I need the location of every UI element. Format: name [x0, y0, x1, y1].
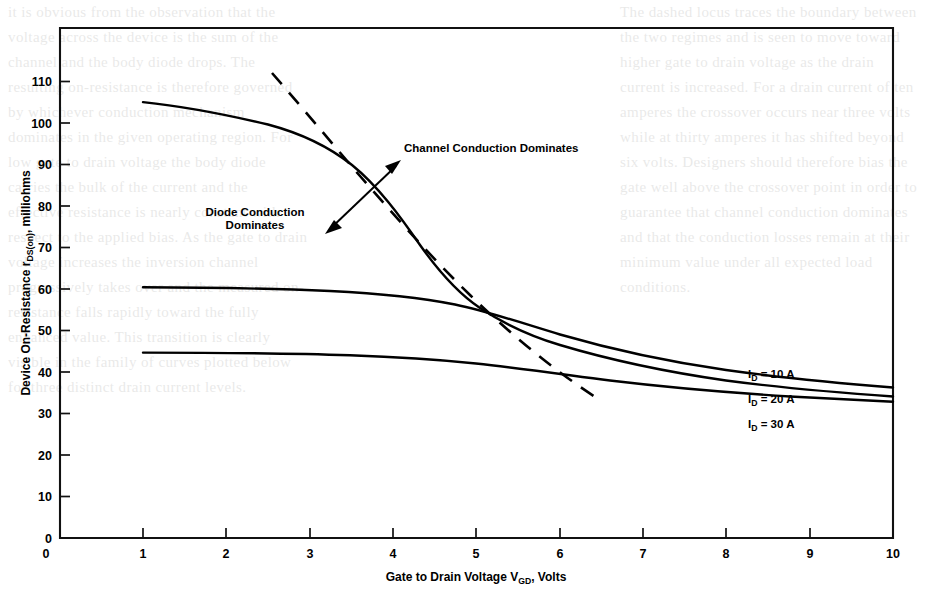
y-tick-label: 20 [38, 449, 52, 463]
y-tick-label: 110 [32, 75, 52, 89]
y-tick-label: 70 [38, 241, 52, 255]
y-tick-label: 40 [38, 366, 52, 380]
series-label-id-30a: ID = 30 A [748, 418, 794, 433]
y-tick-label: 100 [31, 117, 52, 131]
y-axis-ticks [60, 82, 70, 539]
x-axis-ticks [60, 528, 893, 538]
x-axis-title: Gate to Drain Voltage VGD, Volts [386, 570, 567, 586]
annotation-channel-conduction-label: Channel Conduction Dominates [404, 142, 578, 154]
annotation-diode-conduction-line1: Diode Conduction [205, 206, 304, 218]
svg-text:ID = 30 A: ID = 30 A [748, 418, 794, 433]
x-axis-tick-labels: 0 1 2 3 4 5 6 7 8 9 10 [43, 547, 900, 561]
annotation-channel-conduction: Channel Conduction Dominates [404, 142, 578, 154]
y-axis-title-tail: , milliohms [19, 170, 33, 233]
x-tick-label: 0 [43, 547, 50, 561]
x-axis-title-subscript: GD [518, 576, 531, 586]
annotation-diode-conduction: Diode Conduction Dominates [205, 206, 304, 231]
chart-svg: 0 10 20 30 40 50 60 70 80 90 100 110 [0, 0, 929, 600]
double-headed-arrow [325, 160, 401, 234]
series-label-20a-tail: = 20 A [757, 393, 794, 405]
annotation-diode-conduction-line2: Dominates [226, 219, 285, 231]
x-tick-label: 1 [140, 547, 147, 561]
y-axis-tick-labels: 0 10 20 30 40 50 60 70 80 90 100 110 [31, 75, 52, 546]
figure-container: it is obvious from the observation that … [0, 0, 929, 600]
y-tick-label: 90 [38, 158, 52, 172]
y-tick-label: 10 [38, 490, 52, 504]
x-tick-label: 7 [640, 547, 647, 561]
x-tick-label: 3 [307, 547, 314, 561]
svg-text:Device On-Resistance rDS(on),: Device On-Resistance rDS(on), milliohms [19, 170, 35, 396]
y-tick-label: 50 [38, 324, 52, 338]
curve-regime-boundary [272, 73, 600, 400]
svg-text:Gate to Drain Voltage VGD, Vol: Gate to Drain Voltage VGD, Volts [386, 570, 567, 586]
x-tick-label: 10 [886, 547, 900, 561]
series-label-10a-tail: = 10 A [757, 368, 794, 380]
y-axis-title-main: Device On-Resistance r [19, 261, 33, 395]
svg-text:ID = 10 A: ID = 10 A [748, 368, 794, 383]
series-label-id-10a: ID = 10 A [748, 368, 794, 383]
x-axis-title-tail: , Volts [531, 570, 566, 584]
y-tick-label: 30 [38, 407, 52, 421]
series-label-30a-tail: = 30 A [757, 418, 794, 430]
x-tick-label: 8 [723, 547, 730, 561]
x-tick-label: 5 [473, 547, 480, 561]
plot-frame [60, 28, 893, 538]
x-tick-label: 4 [390, 547, 397, 561]
x-tick-label: 9 [807, 547, 814, 561]
y-axis-title-subscript: DS(on) [25, 233, 35, 262]
y-tick-label: 60 [38, 283, 52, 297]
x-axis-title-main: Gate to Drain Voltage V [386, 570, 518, 584]
y-tick-label: 0 [45, 532, 52, 546]
y-tick-label: 80 [38, 200, 52, 214]
x-tick-label: 6 [557, 547, 564, 561]
x-tick-label: 2 [223, 547, 230, 561]
y-axis-title: Device On-Resistance rDS(on), milliohms [19, 170, 35, 396]
data-curves [143, 73, 893, 402]
